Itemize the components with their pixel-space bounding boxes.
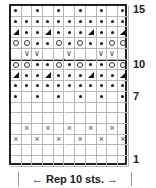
empty-cell <box>97 145 108 156</box>
slip-v-icon: ∨ <box>22 49 33 60</box>
decrease-triangle-icon <box>43 27 54 38</box>
empty-cell <box>107 156 118 167</box>
purl-dot-icon <box>97 27 108 38</box>
yarn-over-circle-icon <box>75 38 86 49</box>
purl-dot-icon <box>97 60 108 71</box>
purl-dot-icon <box>32 38 43 49</box>
cross-x-icon: × <box>11 135 22 146</box>
empty-cell <box>32 156 43 167</box>
cross-x-icon: × <box>65 124 76 135</box>
empty-cell <box>43 92 54 103</box>
purl-dot-icon <box>11 81 22 92</box>
decrease-triangle-icon <box>11 70 22 81</box>
row-label-15: 15 <box>133 3 145 15</box>
empty-cell <box>75 145 86 156</box>
empty-cell <box>65 6 76 17</box>
empty-cell <box>107 135 118 146</box>
row-label-7: 7 <box>133 90 139 102</box>
purl-dot-icon <box>43 17 54 28</box>
decrease-triangle-icon <box>86 27 97 38</box>
empty-cell <box>107 6 118 17</box>
empty-cell <box>43 49 54 60</box>
empty-cell <box>22 145 33 156</box>
purl-dot-icon <box>107 27 118 38</box>
empty-cell <box>54 113 65 124</box>
purl-dot-icon <box>43 81 54 92</box>
decrease-triangle-icon <box>86 70 97 81</box>
decrease-triangle-icon <box>11 27 22 38</box>
cross-x-icon: × <box>97 135 108 146</box>
empty-cell <box>118 103 129 114</box>
empty-cell <box>86 49 97 60</box>
purl-dot-icon <box>65 70 76 81</box>
decrease-triangle-icon <box>43 70 54 81</box>
empty-cell <box>75 49 86 60</box>
purl-dot-icon <box>32 81 43 92</box>
empty-cell <box>86 6 97 17</box>
yarn-over-circle-icon <box>22 60 33 71</box>
yarn-over-circle-icon <box>11 60 22 71</box>
purl-dot-icon <box>86 38 97 49</box>
empty-cell <box>54 156 65 167</box>
cross-x-icon: × <box>86 124 97 135</box>
empty-cell <box>11 145 22 156</box>
purl-dot-icon <box>97 6 108 17</box>
purl-dot-icon <box>43 60 54 71</box>
purl-dot-icon <box>97 70 108 81</box>
purl-dot-icon <box>118 6 129 17</box>
purl-dot-icon <box>54 70 65 81</box>
purl-dot-icon <box>54 27 65 38</box>
purl-dot-icon <box>32 92 43 103</box>
empty-cell <box>32 145 43 156</box>
purl-dot-icon <box>54 81 65 92</box>
purl-dot-icon <box>65 17 76 28</box>
cross-x-icon: × <box>43 124 54 135</box>
purl-dot-icon <box>75 6 86 17</box>
knitting-chart-grid: ∨∨∨∨∨××××××××××× <box>9 4 127 165</box>
purl-dot-icon <box>75 17 86 28</box>
purl-dot-icon <box>118 81 129 92</box>
empty-cell <box>54 103 65 114</box>
purl-dot-icon <box>75 81 86 92</box>
empty-cell <box>65 103 76 114</box>
purl-dot-icon <box>11 92 22 103</box>
empty-cell <box>65 145 76 156</box>
purl-dot-icon <box>75 92 86 103</box>
empty-cell <box>43 145 54 156</box>
purl-dot-icon <box>75 70 86 81</box>
purl-dot-icon <box>22 81 33 92</box>
empty-cell <box>65 135 76 146</box>
empty-cell <box>97 113 108 124</box>
empty-cell <box>32 103 43 114</box>
empty-cell <box>22 103 33 114</box>
empty-cell <box>75 113 86 124</box>
empty-cell <box>65 156 76 167</box>
yarn-over-circle-icon <box>118 60 129 71</box>
decrease-triangle-icon <box>118 70 129 81</box>
decrease-triangle-icon <box>118 27 129 38</box>
purl-dot-icon <box>22 70 33 81</box>
purl-dot-icon <box>118 17 129 28</box>
purl-dot-icon <box>32 27 43 38</box>
purl-dot-icon <box>97 17 108 28</box>
empty-cell <box>86 92 97 103</box>
purl-dot-icon <box>97 92 108 103</box>
slip-v-icon: ∨ <box>97 49 108 60</box>
empty-cell <box>11 103 22 114</box>
empty-cell <box>75 156 86 167</box>
empty-cell <box>86 145 97 156</box>
purl-dot-icon <box>54 17 65 28</box>
empty-cell <box>22 135 33 146</box>
purl-dot-icon <box>97 81 108 92</box>
slip-v-icon: ∨ <box>107 49 118 60</box>
purl-dot-icon <box>11 17 22 28</box>
empty-cell <box>32 113 43 124</box>
empty-cell <box>118 145 129 156</box>
purl-dot-icon <box>54 92 65 103</box>
empty-cell <box>43 6 54 17</box>
purl-dot-icon <box>97 38 108 49</box>
repeat-label: ← Rep 10 sts. → <box>18 172 132 186</box>
purl-dot-icon <box>118 92 129 103</box>
yarn-over-circle-icon <box>54 38 65 49</box>
empty-cell <box>11 49 22 60</box>
